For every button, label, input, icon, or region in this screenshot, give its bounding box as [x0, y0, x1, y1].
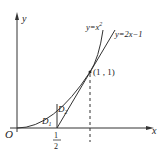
tick-half-denominator: 2: [54, 142, 58, 151]
region-d2-label: D2: [57, 104, 68, 115]
intersection-label: (1 , 1): [93, 67, 115, 77]
y-axis-arrow-icon: [15, 12, 19, 20]
origin-label: O: [5, 128, 13, 140]
figure: y x O y=x2 y=2x−1 (1 , 1) D1 D2 1 2: [0, 0, 162, 156]
tangent-line-label: y=2x−1: [114, 29, 143, 39]
tick-half-numerator: 1: [54, 131, 58, 140]
region-d1-label: D1: [41, 116, 52, 127]
x-axis-label: x: [151, 125, 157, 136]
intersection-point: [89, 71, 92, 74]
y-axis-label: y: [21, 13, 27, 24]
parabola-label: y=x2: [85, 21, 102, 32]
